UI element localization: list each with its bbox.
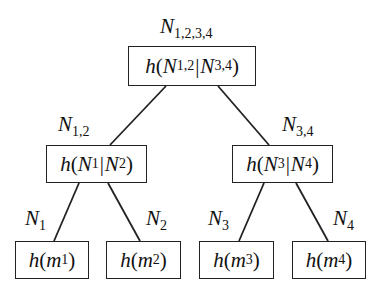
leaf-3-label: N3 [208,206,229,231]
label-sub: 2 [160,218,167,233]
label-var: N [333,206,347,230]
leaf-2-label: N2 [146,206,167,231]
var: N [163,54,177,79]
label-var: N [208,206,222,230]
leaf-3-node: h(m3) [199,241,274,279]
func: h [246,152,257,177]
paren-close: ) [312,152,319,177]
edge-right-m3 [239,183,264,241]
mid-right-node: h(N3|N4) [232,145,333,183]
edge-left-m2 [108,183,140,241]
edge-root-left [110,86,166,145]
func: h [60,152,71,177]
bar: | [195,54,199,79]
edge-root-right [218,86,269,145]
paren-open: ( [71,152,78,177]
var: m [138,248,153,273]
var: N [105,152,119,177]
label-var: N [146,206,160,230]
root-label: N1,2,3,4 [160,14,213,39]
label-sub: 3 [222,218,229,233]
label-sub: 1,2 [72,124,90,139]
label-var: N [282,112,296,136]
var: N [200,54,214,79]
label-var: N [58,112,72,136]
paren-open: ( [316,248,323,273]
paren-close: ) [253,248,260,273]
paren-open: ( [257,152,264,177]
leaf-1-label: N1 [25,206,46,231]
paren-open: ( [224,248,231,273]
mid-left-node: h(N1|N2) [46,145,147,183]
paren-close: ) [126,152,133,177]
var: N [291,152,305,177]
func: h [120,248,131,273]
paren-close: ) [160,248,167,273]
leaf-1-node: h(m1) [15,241,89,279]
paren-open: ( [39,248,46,273]
paren-open: ( [156,54,163,79]
func: h [29,248,40,273]
func: h [306,248,317,273]
label-var: N [25,206,39,230]
bar: | [286,152,290,177]
var: m [46,248,61,273]
leaf-4-label: N4 [333,206,354,231]
var: m [231,248,246,273]
paren-close: ) [345,248,352,273]
var: m [323,248,338,273]
leaf-2-node: h(m2) [106,241,181,279]
paren-open: ( [131,248,138,273]
mid-right-label: N3,4 [282,112,314,137]
edge-left-m1 [54,183,79,241]
paren-close: ) [232,54,239,79]
label-sub: 1 [39,218,46,233]
root-node: h(N1,2|N3,4) [128,46,256,86]
leaf-4-node: h(m4) [292,241,366,279]
label-sub: 1,2,3,4 [174,26,213,41]
label-var: N [160,14,174,38]
edge-right-m4 [296,183,328,241]
bar: | [100,152,104,177]
label-sub: 4 [347,218,354,233]
var: N [264,152,278,177]
var: N [78,152,92,177]
paren-close: ) [68,248,75,273]
func: h [145,54,156,79]
label-sub: 3,4 [296,124,314,139]
func: h [213,248,224,273]
mid-left-label: N1,2 [58,112,90,137]
